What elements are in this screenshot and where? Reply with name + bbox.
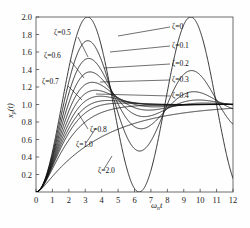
curve-label: ζ=1.0 (76, 140, 93, 149)
y-tick-label: 1.4 (21, 65, 32, 75)
y-axis-label: xp(t) (5, 103, 16, 119)
x-tick-label: 4 (100, 195, 105, 205)
y-tick-label: 0.8 (21, 117, 32, 127)
response-curve (36, 72, 233, 192)
y-tick-label: 0.6 (21, 135, 32, 145)
x-axis-tick-labels: 0123456789101112 (34, 195, 237, 205)
y-tick-label: 1.0 (21, 100, 32, 110)
y-tick-label: 0.2 (21, 170, 32, 180)
x-tick-label: 8 (165, 195, 169, 205)
x-tick-label: 11 (212, 195, 220, 205)
curve-label: ζ=0 (172, 22, 183, 31)
y-tick-label: 1.2 (21, 82, 32, 92)
annotation-leader (110, 46, 170, 52)
annotation-leader (78, 37, 88, 57)
curve-label: ζ=0.3 (172, 75, 189, 84)
x-tick-label: 5 (116, 195, 120, 205)
annotation-leader (104, 64, 170, 68)
x-tick-label: 2 (67, 195, 71, 205)
y-tick-label: 2.0 (21, 12, 32, 22)
curve-label: ζ=2.0 (98, 166, 115, 175)
x-axis-label: ωnt (151, 200, 163, 211)
x-tick-label: 12 (229, 195, 238, 205)
curve-label: ζ=0.4 (172, 91, 189, 100)
response-curve (36, 41, 233, 192)
x-axis-ticks (36, 189, 233, 192)
step-response-chart: 0123456789101112 0.20.40.60.81.01.21.41.… (0, 0, 250, 228)
y-tick-label: 0.4 (21, 152, 32, 162)
curve-label: ζ=0.8 (90, 125, 107, 134)
y-tick-label: 1.6 (21, 47, 32, 57)
annotation-leader (118, 27, 170, 36)
curve-label: ζ=0.2 (172, 59, 189, 68)
response-curves (36, 17, 233, 192)
response-curve (36, 103, 233, 192)
x-tick-label: 0 (34, 195, 38, 205)
x-tick-label: 1 (50, 195, 54, 205)
y-axis-ticks (36, 17, 39, 175)
annotation-leader (96, 94, 170, 96)
curve-label: ζ=0.1 (172, 41, 189, 50)
x-tick-label: 6 (132, 195, 136, 205)
x-tick-label: 3 (83, 195, 87, 205)
x-tick-label: 9 (182, 195, 186, 205)
y-axis-tick-labels: 0.20.40.60.81.01.21.41.61.82.0 (21, 12, 32, 180)
curve-label: ζ=0.5 (54, 28, 71, 37)
annotation-leader (100, 80, 170, 82)
y-tick-label: 1.8 (21, 30, 32, 40)
curve-label: ζ=0.7 (42, 77, 59, 86)
curve-label: ζ=0.6 (44, 51, 61, 60)
response-curve (36, 82, 233, 192)
x-tick-label: 10 (196, 195, 205, 205)
figure-container: 0123456789101112 0.20.40.60.81.01.21.41.… (0, 0, 250, 228)
